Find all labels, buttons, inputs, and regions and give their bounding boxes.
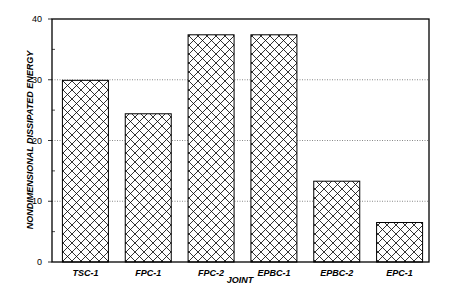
bar-epc-1 [377, 223, 423, 262]
bar-epbc-1 [251, 35, 297, 262]
x-tick-label: EPBC-1 [257, 268, 290, 278]
x-tick-label: EPC-1 [386, 268, 413, 278]
bar-fpc-1 [125, 114, 171, 262]
x-axis-label: JOINT [227, 275, 255, 285]
bar-epbc-2 [314, 181, 360, 262]
bar-chart: 010203040 TSC-1FPC-1FPC-2EPBC-1EPBC-2EPC… [0, 0, 452, 297]
bars [62, 35, 422, 262]
bar-fpc-2 [188, 35, 234, 262]
x-tick-label: TSC-1 [72, 268, 98, 278]
x-tick-label: FPC-2 [198, 268, 224, 278]
bar-tsc-1 [62, 80, 108, 262]
y-tick-label: 0 [37, 257, 42, 267]
x-tick-label: EPBC-2 [320, 268, 353, 278]
y-axis-label: NONDIMENSIONAL DISSIPATED ENERGY [25, 50, 35, 230]
y-tick-label: 40 [32, 14, 42, 24]
x-tick-label: FPC-1 [135, 268, 161, 278]
